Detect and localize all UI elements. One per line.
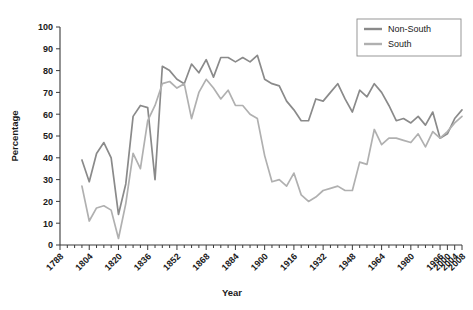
chart-legend: Non-SouthSouth	[357, 19, 461, 56]
y-tick-label: 100	[38, 22, 53, 32]
y-tick-label: 10	[43, 219, 53, 229]
y-axis-title: Percentage	[9, 110, 20, 161]
y-tick-label: 90	[43, 44, 53, 54]
x-axis-title: Year	[222, 287, 242, 298]
y-tick-label: 0	[48, 240, 53, 250]
y-tick-label: 30	[43, 175, 53, 185]
y-tick-label: 70	[43, 88, 53, 98]
y-tick-label: 20	[43, 197, 53, 207]
voter-turnout-line-chart: 0102030405060708090100 Percentage 178818…	[0, 0, 473, 310]
y-tick-label: 50	[43, 131, 53, 141]
y-tick-label: 40	[43, 153, 53, 163]
y-tick-label: 60	[43, 110, 53, 120]
legend-label-south: South	[388, 39, 412, 49]
y-tick-label: 80	[43, 66, 53, 76]
legend-label-non-south: Non-South	[388, 24, 431, 34]
